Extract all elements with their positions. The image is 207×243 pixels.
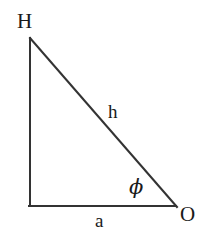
hypotenuse-line <box>30 38 177 207</box>
triangle-shape <box>0 0 207 243</box>
hypotenuse-label: h <box>108 102 118 121</box>
angle-label-phi: ϕ <box>129 177 143 198</box>
geometry-figure: H O h a ϕ <box>0 0 207 243</box>
base-label: a <box>95 211 103 230</box>
vertex-label-h: H <box>17 11 32 32</box>
vertex-label-o: O <box>180 204 195 225</box>
